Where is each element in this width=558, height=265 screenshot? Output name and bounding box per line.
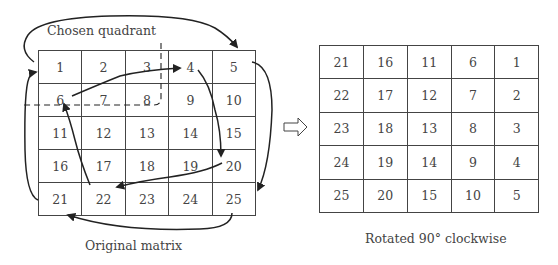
matrix-cell: 1 xyxy=(495,46,539,79)
matrix-row: 23 18 13 8 3 xyxy=(320,112,539,145)
matrix-cell: 25 xyxy=(320,179,364,212)
matrix-cell: 19 xyxy=(169,150,212,183)
matrix-row: 25 20 15 10 5 xyxy=(320,179,539,212)
matrix-cell: 4 xyxy=(169,51,212,84)
matrix-cell: 5 xyxy=(212,51,255,84)
matrix-cell: 18 xyxy=(363,112,407,145)
matrix-cell: 15 xyxy=(407,179,451,212)
matrix-cell: 14 xyxy=(407,146,451,179)
matrix-cell: 11 xyxy=(407,46,451,79)
matrix-cell: 10 xyxy=(451,179,495,212)
matrix-row: 21 22 23 24 25 xyxy=(39,183,256,216)
matrix-cell: 13 xyxy=(125,117,168,150)
matrix-cell: 18 xyxy=(125,150,168,183)
hollow-right-arrow-icon xyxy=(284,118,307,136)
matrix-cell: 20 xyxy=(212,150,255,183)
rotated-matrix-grid: 21 16 11 6 1 22 17 12 7 2 23 18 13 8 3 2… xyxy=(319,45,539,213)
matrix-cell: 21 xyxy=(39,183,82,216)
matrix-cell: 11 xyxy=(39,117,82,150)
matrix-cell: 16 xyxy=(363,46,407,79)
matrix-cell: 16 xyxy=(39,150,82,183)
matrix-cell: 23 xyxy=(125,183,168,216)
matrix-cell: 14 xyxy=(169,117,212,150)
arrow-21-to-1-icon xyxy=(25,72,38,200)
matrix-cell: 2 xyxy=(82,51,125,84)
matrix-row: 21 16 11 6 1 xyxy=(320,46,539,79)
matrix-row: 22 17 12 7 2 xyxy=(320,79,539,112)
matrix-cell: 21 xyxy=(320,46,364,79)
matrix-cell: 24 xyxy=(320,146,364,179)
matrix-cell: 1 xyxy=(39,51,82,84)
matrix-cell: 7 xyxy=(451,79,495,112)
matrix-row: 11 12 13 14 15 xyxy=(39,117,256,150)
matrix-cell: 6 xyxy=(451,46,495,79)
rotated-matrix-caption: Rotated 90° clockwise xyxy=(365,231,507,246)
matrix-cell: 12 xyxy=(407,79,451,112)
matrix-cell: 10 xyxy=(212,84,255,117)
matrix-cell: 13 xyxy=(407,112,451,145)
matrix-cell: 17 xyxy=(363,79,407,112)
matrix-cell: 9 xyxy=(451,146,495,179)
matrix-row: 1 2 3 4 5 xyxy=(39,51,256,84)
matrix-cell: 3 xyxy=(125,51,168,84)
matrix-cell: 12 xyxy=(82,117,125,150)
matrix-cell: 9 xyxy=(169,84,212,117)
matrix-cell: 22 xyxy=(320,79,364,112)
matrix-cell: 25 xyxy=(212,183,255,216)
matrix-cell: 15 xyxy=(212,117,255,150)
matrix-row: 6 7 8 9 10 xyxy=(39,84,256,117)
matrix-row: 16 17 18 19 20 xyxy=(39,150,256,183)
matrix-cell: 19 xyxy=(363,146,407,179)
matrix-row: 24 19 14 9 4 xyxy=(320,146,539,179)
matrix-cell: 6 xyxy=(39,84,82,117)
original-matrix-grid: 1 2 3 4 5 6 7 8 9 10 11 12 13 14 15 16 1… xyxy=(38,50,256,216)
matrix-cell: 8 xyxy=(451,112,495,145)
matrix-cell: 3 xyxy=(495,112,539,145)
matrix-cell: 5 xyxy=(495,179,539,212)
matrix-cell: 20 xyxy=(363,179,407,212)
matrix-cell: 4 xyxy=(495,146,539,179)
matrix-cell: 2 xyxy=(495,79,539,112)
matrix-cell: 23 xyxy=(320,112,364,145)
chosen-quadrant-label: Chosen quadrant xyxy=(47,23,156,38)
matrix-cell: 7 xyxy=(82,84,125,117)
matrix-cell: 8 xyxy=(125,84,168,117)
original-matrix-caption: Original matrix xyxy=(85,238,182,253)
matrix-cell: 17 xyxy=(82,150,125,183)
matrix-cell: 24 xyxy=(169,183,212,216)
matrix-cell: 22 xyxy=(82,183,125,216)
